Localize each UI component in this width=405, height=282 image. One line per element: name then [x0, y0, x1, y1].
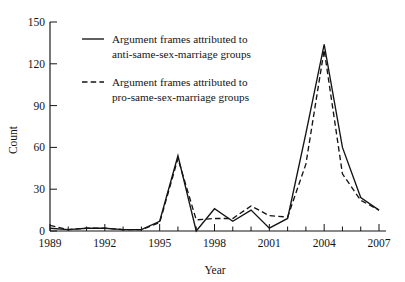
- y-tick-label: 30: [34, 183, 46, 195]
- series-layer: [50, 44, 379, 231]
- y-axis-label: Count: [7, 125, 19, 154]
- chart-legend: Argument frames attributed to anti-same-…: [82, 33, 251, 103]
- x-tick-label: 1992: [93, 237, 116, 249]
- y-tick-label: 90: [34, 100, 46, 112]
- y-tick-label: 120: [28, 58, 46, 70]
- x-tick-label: 1998: [203, 237, 226, 249]
- x-tick-label: 1989: [39, 237, 62, 249]
- x-tick-label: 2007: [368, 237, 391, 249]
- legend-entry-1-line1: Argument frames attributed to: [112, 76, 248, 88]
- series-line-anti: [50, 44, 379, 231]
- y-tick-label: 0: [39, 225, 45, 237]
- x-tick-label: 1995: [148, 237, 171, 249]
- y-tick-label: 60: [34, 141, 46, 153]
- x-tick-label: 2001: [258, 237, 281, 249]
- x-tick-label: 2004: [313, 237, 336, 249]
- line-chart: 0306090120150 19891992199519982001200420…: [0, 0, 405, 282]
- legend-entry-0-line2: anti-same-sex-marriage groups: [112, 48, 251, 60]
- legend-entry-0-line1: Argument frames attributed to: [112, 33, 248, 45]
- x-axis-label: Year: [204, 264, 225, 276]
- legend-entry-1-line2: pro-same-sex-marriage groups: [112, 91, 249, 103]
- y-axis-ticks: 0306090120150: [28, 16, 57, 237]
- y-tick-label: 150: [28, 16, 46, 28]
- chart-figure: 0306090120150 19891992199519982001200420…: [0, 0, 405, 282]
